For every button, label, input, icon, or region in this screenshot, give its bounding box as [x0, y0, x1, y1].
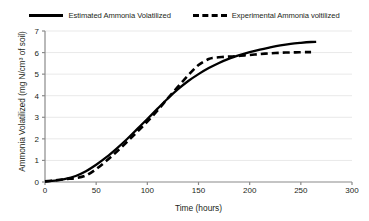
x-tick-label: 100 — [141, 186, 154, 195]
y-tick-label: 7 — [27, 27, 39, 36]
x-tick-label: 0 — [43, 186, 47, 195]
x-tick-label: 250 — [294, 186, 307, 195]
y-tick-label: 3 — [27, 113, 39, 122]
y-tick-label: 6 — [27, 48, 39, 57]
y-tick-label: 5 — [27, 70, 39, 79]
x-tick-label: 50 — [92, 186, 101, 195]
chart-figure: Estimated Ammonia Volatilized Experiment… — [0, 0, 369, 221]
plot-area — [0, 0, 369, 221]
y-tick-label: 4 — [27, 91, 39, 100]
y-tick-label: 2 — [27, 134, 39, 143]
x-tick-label: 150 — [192, 186, 205, 195]
y-tick-label: 1 — [27, 156, 39, 165]
series-line-experimental — [45, 52, 311, 181]
y-tick-label: 0 — [27, 178, 39, 187]
x-tick-label: 300 — [345, 186, 358, 195]
x-tick-label: 200 — [243, 186, 256, 195]
